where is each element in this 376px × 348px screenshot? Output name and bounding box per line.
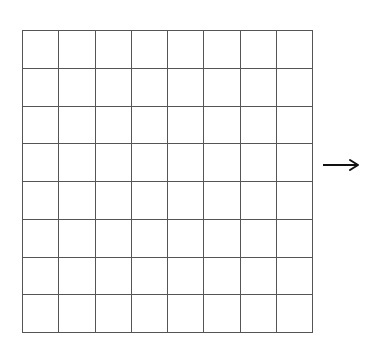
right-arrow-icon — [0, 0, 376, 348]
